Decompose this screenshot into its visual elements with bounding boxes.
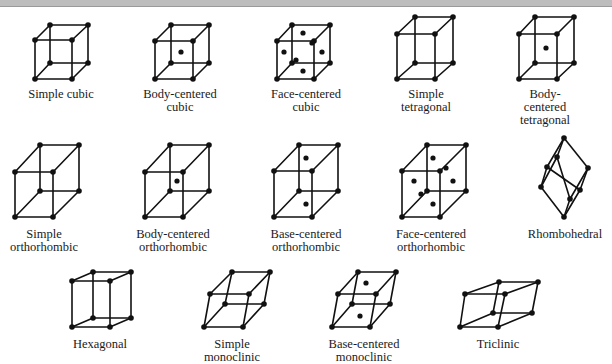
lattice-triclinic — [457, 279, 541, 330]
lattice-point — [206, 142, 212, 148]
lattice-point — [128, 315, 134, 321]
lattice-point — [349, 301, 355, 307]
lattice-point — [50, 169, 56, 175]
centered-atom — [319, 49, 324, 54]
lattice-base-centered-orthorhombic — [271, 142, 341, 220]
centered-atom — [300, 30, 305, 35]
lattice-edge — [314, 63, 330, 79]
lattice-caption: Rhombohedral — [528, 228, 602, 241]
lattice-base-centered-monoclinic — [329, 269, 399, 330]
lattice-point — [206, 188, 212, 194]
centered-atom — [303, 155, 308, 160]
lattice-point — [561, 135, 567, 141]
lattice-edge — [15, 145, 40, 172]
centered-atom — [411, 178, 416, 183]
lattice-point — [335, 142, 341, 148]
lattice-simple-orthorhombic — [12, 142, 82, 220]
centered-atom — [430, 155, 435, 160]
lattice-point — [107, 324, 113, 330]
lattice-point — [554, 76, 560, 82]
lattice-edge — [498, 294, 505, 327]
lattice-point — [168, 60, 174, 66]
lattice-point — [289, 22, 295, 28]
centered-atom — [300, 68, 305, 73]
lattice-hexagonal — [69, 269, 134, 330]
lattice-point — [37, 142, 43, 148]
lattice-face-centered-orthorhombic — [399, 142, 469, 220]
centered-atom — [178, 49, 183, 54]
lattice-point — [329, 324, 335, 330]
lattice-point — [69, 37, 75, 43]
lattice-point — [296, 142, 302, 148]
lattice-point — [207, 291, 213, 297]
centered-atom — [281, 49, 286, 54]
lattice-point — [502, 291, 508, 297]
centered-atom — [303, 201, 308, 206]
lattice-point — [355, 269, 361, 275]
lattice-caption: Body-centered orthorhombic — [136, 228, 210, 254]
lattice-point — [567, 196, 573, 202]
lattice-caption: Simple monoclinic — [204, 338, 260, 364]
lattice-body-centered-orthorhombic — [142, 142, 212, 220]
lattice-point — [335, 291, 341, 297]
lattice-edge — [570, 168, 588, 199]
lattice-edge — [193, 25, 209, 41]
lattice-point — [532, 60, 538, 66]
lattice-point — [201, 324, 207, 330]
lattice-edge — [564, 138, 588, 168]
lattice-caption: Body-centered tetragonal — [512, 88, 579, 127]
lattice-edge — [557, 63, 574, 79]
lattice-point — [424, 142, 430, 148]
lattice-point — [424, 188, 430, 194]
lattice-point — [311, 76, 317, 82]
lattice-face-centered-cubic — [274, 22, 333, 82]
lattice-point — [32, 37, 38, 43]
lattice-point — [12, 169, 18, 175]
lattice-caption: Hexagonal — [73, 338, 127, 351]
lattice-point — [535, 279, 541, 285]
centered-atom — [293, 57, 298, 62]
lattice-rhombohedral — [538, 135, 591, 220]
lattice-caption: Simple cubic — [28, 88, 94, 101]
lattice-point — [271, 214, 277, 220]
lattice-point — [393, 269, 399, 275]
lattice-point — [450, 60, 456, 66]
lattice-point — [437, 214, 443, 220]
lattice-point — [142, 169, 148, 175]
lattice-edge — [532, 282, 538, 313]
lattice-point — [516, 31, 522, 37]
lattice-point — [180, 214, 186, 220]
lattice-simple-cubic — [32, 22, 91, 82]
lattice-edge — [312, 191, 338, 217]
lattice-point — [561, 214, 567, 220]
lattice-edge — [498, 313, 532, 327]
lattice-point — [327, 22, 333, 28]
lattice-edge — [435, 17, 453, 34]
lattice-point — [240, 324, 246, 330]
lattice-edge — [312, 145, 338, 171]
lattice-point — [387, 301, 393, 307]
lattice-point — [463, 142, 469, 148]
lattice-point — [538, 184, 544, 190]
centered-atom — [450, 178, 455, 183]
lattice-point — [142, 214, 148, 220]
lattice-edge — [72, 318, 93, 327]
lattice-edge — [35, 63, 50, 79]
lattice-body-centered-cubic — [152, 22, 212, 82]
lattice-edge — [547, 167, 580, 190]
lattice-point — [577, 187, 583, 193]
lattice-edge — [519, 17, 535, 34]
lattice-edge — [72, 63, 88, 79]
lattice-point — [490, 310, 496, 316]
lattice-point — [69, 76, 75, 82]
lattice-point — [85, 22, 91, 28]
lattice-point — [47, 22, 53, 28]
lattice-edge — [15, 191, 40, 217]
lattice-point — [168, 22, 174, 28]
lattice-point — [261, 301, 267, 307]
lattice-edge — [53, 191, 79, 217]
lattice-edge — [72, 272, 93, 281]
lattice-point — [206, 60, 212, 66]
lattice-body-centered-tetragonal — [516, 14, 577, 82]
